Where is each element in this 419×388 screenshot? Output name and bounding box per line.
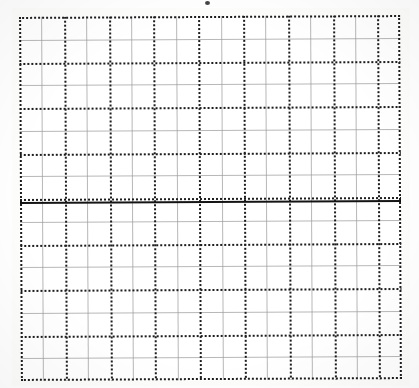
screenshot-root xyxy=(0,0,419,388)
plot-border xyxy=(19,15,402,381)
grid-plot-area xyxy=(19,15,402,381)
scan-speck-icon xyxy=(205,1,210,5)
